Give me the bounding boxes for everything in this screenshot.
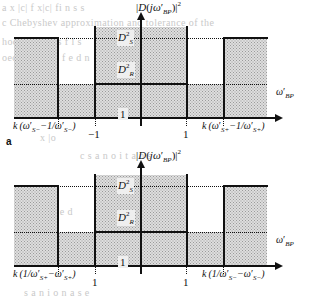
fill-left-transition [58,232,95,266]
curve-seg-outer-right-top [223,185,268,187]
x-axis-arrow [275,262,283,270]
level-label-ds: D2S [117,178,134,194]
curve-seg-right-fall [186,174,188,267]
y-axis [140,168,142,274]
level-label-ds: D2S [117,30,134,46]
panel-tag-a: a [6,136,12,147]
x-axis [14,265,276,267]
x-tick-label-minus-one: 1 [92,276,98,288]
y-axis [140,20,142,126]
level-label-one: 1 [118,256,128,268]
fill-left-stop [14,38,58,118]
curve-seg-right-rise [223,185,225,267]
x-axis-title: ω′BP [276,234,294,248]
level-label-one: 1 [118,108,128,120]
x-tick-label-right-edge: k (1/ω′S−−ω′S−) [202,268,265,282]
curve-seg-left-drop [57,185,59,267]
x-tick-label-left-edge: k (ω′S−−1/ω′S−) [13,120,76,134]
fill-left-transition [58,84,95,118]
level-label-dr: D2R [117,210,135,226]
curve-seg-left-drop [57,37,59,119]
level-label-dr: D2R [117,62,135,78]
x-tick-label-left-edge: k (1/ω′S+−ω′S+) [13,268,76,282]
curve-seg-outer-right-top [223,37,268,39]
x-axis-title: ω′BP [276,86,294,100]
x-tick-label-minus-one: −1 [88,128,100,140]
y-axis-title: |D(jω′BP)|2 [136,0,181,16]
curve-seg-right-fall [186,26,188,119]
curve-seg-left-rise [94,174,96,267]
x-tick-label-right-edge: k (ω′S+−1/ω′S+) [202,120,265,134]
fill-right-transition [186,84,223,118]
fill-right-stop [223,38,267,118]
curve-seg-outer-left-top [14,37,59,39]
curve-seg-right-rise [223,37,225,119]
x-axis [14,117,276,119]
curve-seg-outer-left-top [14,185,59,187]
panel-a: |D(jω′BP)|2 D2S D2R 1 k (ω′S−−1/ω′S−) −1… [0,0,314,148]
y-axis-title: |D(jω′BP)|2 [136,148,181,164]
panel-b: |D(jω′BP)|2 D2S D2R 1 k (1/ω′S+−ω′S+) 1 … [0,148,314,296]
x-tick-label-plus-one: 1 [183,276,189,288]
fill-right-transition [186,232,223,266]
x-tick-label-plus-one: 1 [183,128,189,140]
x-axis-arrow [275,114,283,122]
fill-right-stop [223,186,267,266]
curve-seg-left-rise [94,26,96,119]
fill-left-stop [14,186,58,266]
